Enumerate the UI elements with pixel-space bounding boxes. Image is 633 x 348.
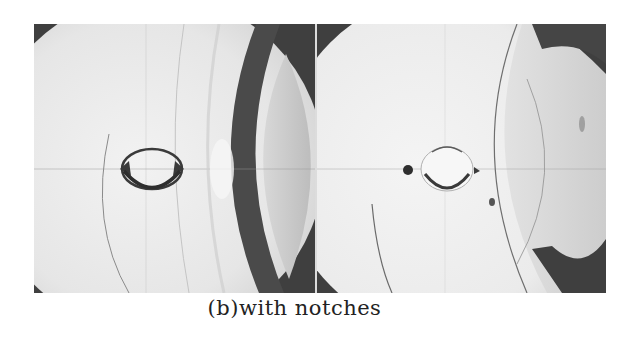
photo-panel-right bbox=[317, 24, 606, 293]
photo-panel-left bbox=[34, 24, 315, 293]
photo-right-image bbox=[317, 24, 606, 293]
photo-left-image bbox=[34, 24, 315, 293]
caption-text: (b)with notches bbox=[208, 294, 382, 322]
figure-caption: (b)with notches bbox=[0, 294, 633, 322]
figure: (b)with notches bbox=[0, 0, 633, 348]
